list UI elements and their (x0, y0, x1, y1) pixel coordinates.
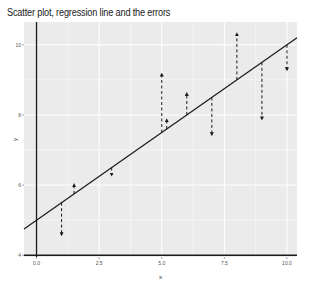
scatter-chart: 0.02.55.07.510.0 46810 x y (0, 0, 313, 295)
y-tick-label: 10 (15, 42, 21, 48)
x-axis-ticks: 0.02.55.07.510.0 (33, 257, 292, 266)
x-axis-title: x (159, 274, 162, 280)
x-tick-label: 0.0 (33, 260, 40, 266)
x-tick-label: 2.5 (96, 260, 103, 266)
y-axis-title: y (12, 138, 18, 141)
y-tick-label: 6 (18, 182, 21, 188)
x-tick-label: 7.5 (221, 260, 228, 266)
x-tick-label: 5.0 (158, 260, 165, 266)
y-axis-ticks: 46810 (15, 42, 24, 258)
x-tick-label: 10.0 (282, 260, 292, 266)
y-tick-label: 4 (18, 252, 21, 258)
plot-panel (24, 22, 297, 257)
y-tick-label: 8 (18, 112, 21, 118)
